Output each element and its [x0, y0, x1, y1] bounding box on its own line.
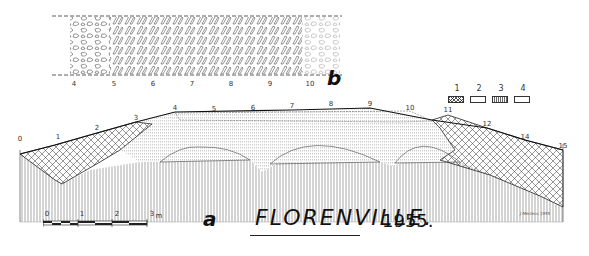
title-underline	[250, 235, 360, 236]
section-tick: 14	[521, 133, 530, 141]
section-tick: 8	[329, 100, 333, 108]
section-tick: 12	[483, 120, 492, 128]
section-tick: 9	[368, 100, 372, 108]
signature: J.Mertens 1955	[520, 211, 550, 216]
scale-bar-graphic	[43, 219, 155, 229]
section-tick: 15	[559, 142, 568, 150]
panel-a-label: a	[203, 207, 217, 231]
section-tick: 10	[406, 104, 415, 112]
section-tick: 11	[444, 106, 453, 114]
scale-unit: m	[156, 212, 163, 220]
drawing-year: 1955.	[382, 210, 434, 231]
